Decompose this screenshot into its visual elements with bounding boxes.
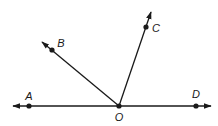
point-C xyxy=(143,24,148,29)
label-O: O xyxy=(115,111,124,123)
angle-diagram: A B C D O xyxy=(0,0,218,126)
label-C: C xyxy=(152,22,160,34)
label-A: A xyxy=(24,90,32,102)
point-A xyxy=(26,103,31,108)
label-B: B xyxy=(57,37,64,49)
label-D: D xyxy=(192,88,200,100)
point-D xyxy=(193,103,198,108)
point-B xyxy=(49,47,54,52)
point-O xyxy=(116,103,121,108)
